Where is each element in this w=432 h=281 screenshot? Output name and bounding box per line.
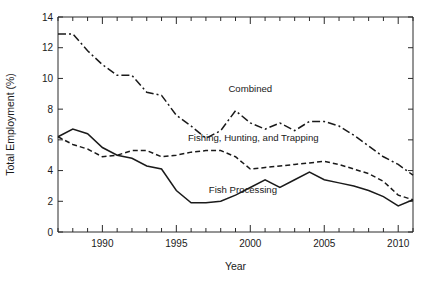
x-axis-tick-labels: 19901995200020052010 <box>91 238 410 249</box>
y-tick-label: 0 <box>47 227 53 238</box>
x-tick-label: 2005 <box>313 238 336 249</box>
y-axis-tick-labels: 02468101214 <box>42 12 54 238</box>
x-axis-ticks <box>58 17 413 232</box>
x-tick-label: 1990 <box>91 238 114 249</box>
y-axis-ticks <box>58 17 413 232</box>
y-tick-label: 10 <box>42 73 54 84</box>
x-tick-label: 2010 <box>387 238 410 249</box>
y-tick-label: 2 <box>47 196 53 207</box>
series-label-fishing-hunting-and-trapping: Fishing, Hunting, and Trapping <box>188 132 319 143</box>
x-tick-label: 2000 <box>239 238 262 249</box>
y-tick-label: 6 <box>47 134 53 145</box>
chart-canvas: 02468101214 19901995200020052010 Total E… <box>0 0 432 281</box>
x-axis-title: Year <box>225 260 247 272</box>
y-tick-label: 14 <box>42 12 54 23</box>
series-line-combined <box>58 34 413 175</box>
y-tick-label: 12 <box>42 42 54 53</box>
series-lines <box>58 34 413 206</box>
axis-frame <box>58 17 413 232</box>
x-tick-label: 1995 <box>165 238 188 249</box>
plot-frame <box>58 17 413 232</box>
y-axis-title: Total Employment (%) <box>4 73 16 176</box>
y-tick-label: 4 <box>47 165 53 176</box>
series-label-fish-processing: Fish Processing <box>209 184 277 195</box>
series-label-combined: Combined <box>228 83 272 94</box>
chart-figure: 02468101214 19901995200020052010 Total E… <box>0 0 432 281</box>
y-tick-label: 8 <box>47 104 53 115</box>
